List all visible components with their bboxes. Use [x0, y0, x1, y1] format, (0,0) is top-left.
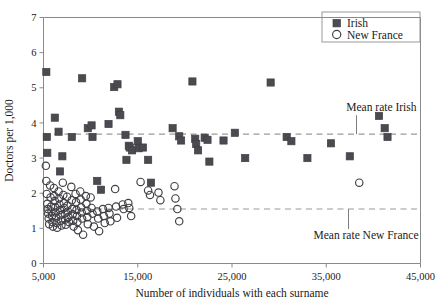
x-tick-label: 45,000	[406, 271, 435, 282]
point-irish	[68, 133, 75, 140]
y-tick-label: 0	[31, 258, 36, 269]
point-irish	[89, 133, 96, 140]
point-irish	[220, 137, 227, 144]
point-new-france	[155, 189, 162, 196]
point-new-france	[79, 231, 86, 238]
y-tick-label: 7	[31, 12, 36, 23]
x-tick-label: 25,000	[218, 271, 247, 282]
point-irish	[59, 153, 66, 160]
y-tick-label: 6	[31, 47, 36, 58]
point-irish	[267, 79, 274, 86]
point-irish	[88, 122, 95, 129]
point-irish	[242, 154, 249, 161]
point-irish	[288, 138, 295, 145]
y-tick-label: 1	[31, 223, 36, 234]
y-tick-label: 3	[31, 153, 36, 164]
x-tick-label: 15,000	[123, 271, 152, 282]
point-irish	[194, 147, 201, 154]
point-irish	[204, 136, 211, 143]
chart-canvas: 012345675,00015,00025,00035,00045,000Num…	[0, 0, 444, 303]
point-irish	[105, 120, 112, 127]
x-axis-title: Number of individuals with each surname	[135, 287, 328, 299]
point-new-france	[176, 218, 183, 225]
point-irish	[123, 156, 130, 163]
point-irish	[56, 168, 63, 175]
point-irish	[169, 125, 176, 132]
point-irish	[381, 125, 388, 132]
point-new-france	[144, 187, 151, 194]
point-irish	[231, 129, 238, 136]
point-irish	[122, 131, 129, 138]
point-new-france	[82, 192, 89, 199]
point-new-france	[172, 195, 179, 202]
point-irish	[114, 81, 121, 88]
point-irish	[304, 154, 311, 161]
point-irish	[44, 149, 51, 156]
point-new-france	[95, 227, 102, 234]
point-irish	[178, 137, 185, 144]
point-new-france	[356, 179, 363, 186]
y-tick-label: 4	[31, 118, 37, 129]
point-irish	[79, 75, 86, 82]
point-new-france	[111, 185, 118, 192]
point-irish	[55, 128, 62, 135]
series-irish	[43, 68, 391, 193]
point-irish	[139, 144, 146, 151]
point-irish	[189, 78, 196, 85]
point-new-france	[113, 214, 120, 221]
legend-label-irish: Irish	[347, 17, 368, 29]
point-irish	[51, 114, 58, 121]
point-new-france	[87, 194, 94, 201]
y-tick-label: 5	[31, 82, 36, 93]
point-irish	[147, 179, 154, 186]
point-irish	[327, 140, 334, 147]
legend-label-new-france: New France	[347, 29, 403, 41]
point-new-france	[127, 212, 134, 219]
point-new-france	[59, 179, 66, 186]
x-tick-label: 35,000	[312, 271, 341, 282]
point-irish	[43, 68, 50, 75]
point-irish	[94, 177, 101, 184]
point-new-france	[137, 178, 144, 185]
plot-frame	[44, 18, 421, 264]
point-irish	[145, 156, 152, 163]
y-axis-title: Doctors per 1,000	[3, 99, 16, 182]
y-tick-label: 2	[31, 188, 36, 199]
point-irish	[346, 153, 353, 160]
annotation-mean-rate-new-france: Mean rate New France	[313, 229, 418, 241]
point-new-france	[171, 182, 178, 189]
scatter-chart: 012345675,00015,00025,00035,00045,000Num…	[0, 0, 444, 303]
point-new-france	[157, 197, 164, 204]
point-irish	[117, 112, 124, 119]
point-irish	[97, 186, 104, 193]
point-irish	[129, 147, 136, 154]
legend-marker-irish	[333, 20, 340, 27]
point-irish	[43, 133, 50, 140]
point-irish	[384, 133, 391, 140]
legend-marker-new-france	[333, 30, 341, 38]
annotation-mean-rate-irish: Mean rate Irish	[346, 101, 416, 113]
point-new-france	[146, 191, 153, 198]
point-new-france	[68, 183, 75, 190]
point-irish	[206, 158, 213, 165]
x-tick-label: 5,000	[32, 271, 56, 282]
series-new-france	[42, 162, 363, 238]
point-irish	[375, 112, 382, 119]
